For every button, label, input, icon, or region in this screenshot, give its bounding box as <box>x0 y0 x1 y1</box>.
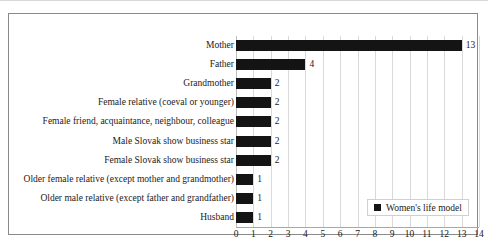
bar-value-label: 2 <box>275 113 280 130</box>
gridline <box>479 36 480 227</box>
y-axis-category-label: Husband <box>16 208 234 227</box>
y-axis-category-label: Female relative (coeval or younger) <box>16 93 234 112</box>
x-tick-label: 12 <box>440 229 450 239</box>
bar <box>236 116 271 127</box>
bar-row: 2 <box>236 93 479 112</box>
x-tick-label: 9 <box>390 229 395 239</box>
bar-row: 2 <box>236 74 479 93</box>
bar-value-label: 2 <box>275 94 280 111</box>
bar <box>236 59 305 70</box>
y-axis-category-label: Father <box>16 55 234 74</box>
x-tick-label: 6 <box>338 229 343 239</box>
x-axis-tick-labels: 01234567891011121314 <box>236 229 479 243</box>
x-tick-label: 7 <box>355 229 360 239</box>
y-axis-category-label: Female Slovak show business star <box>16 151 234 170</box>
y-axis-category-label: Male Slovak show business star <box>16 132 234 151</box>
x-tick-label: 8 <box>372 229 377 239</box>
bar <box>236 212 253 223</box>
bar <box>236 193 253 204</box>
bar-row: 2 <box>236 132 479 151</box>
bar-value-label: 2 <box>275 133 280 150</box>
bar-value-label: 4 <box>309 56 314 73</box>
bar <box>236 78 271 89</box>
y-axis-category-label: Female friend, acquaintance, neighbour, … <box>16 112 234 131</box>
bar <box>236 155 271 166</box>
legend-swatch-icon <box>374 204 381 211</box>
x-axis-line <box>236 227 479 228</box>
bar <box>236 136 271 147</box>
bar-value-label: 1 <box>257 190 262 207</box>
x-tick-label: 10 <box>405 229 415 239</box>
bar-value-label: 1 <box>257 171 262 188</box>
x-tick-label: 11 <box>422 229 431 239</box>
bar-row: 2 <box>236 112 479 131</box>
y-axis-category-labels: MotherFatherGrandmotherFemale relative (… <box>14 36 234 227</box>
bar-row: 13 <box>236 36 479 55</box>
y-axis-category-label: Older female relative (except mother and… <box>16 170 234 189</box>
y-axis-category-label: Older male relative (except father and g… <box>16 189 234 208</box>
chart-frame: MotherFatherGrandmotherFemale relative (… <box>8 13 478 235</box>
legend-item-label: Women's life model <box>386 203 462 213</box>
bar-value-label: 2 <box>275 75 280 92</box>
bar-row: 4 <box>236 55 479 74</box>
bar-row: 1 <box>236 170 479 189</box>
y-axis-category-label: Grandmother <box>16 74 234 93</box>
x-tick-label: 0 <box>234 229 239 239</box>
x-tick-label: 4 <box>303 229 308 239</box>
y-axis-category-label: Mother <box>16 36 234 55</box>
bar <box>236 97 271 108</box>
bar-value-label: 2 <box>275 152 280 169</box>
x-tick-label: 3 <box>286 229 291 239</box>
x-tick-label: 13 <box>457 229 467 239</box>
page-top-rule <box>0 0 488 1</box>
x-tick-label: 1 <box>251 229 256 239</box>
bar <box>236 40 462 51</box>
bar-value-label: 1 <box>257 209 262 226</box>
bar-value-label: 13 <box>466 37 476 54</box>
bar-row: 2 <box>236 151 479 170</box>
chart-figure: MotherFatherGrandmotherFemale relative (… <box>0 0 488 246</box>
chart-legend: Women's life model <box>367 199 469 216</box>
x-tick-label: 14 <box>474 229 484 239</box>
bar <box>236 174 253 185</box>
x-tick-label: 2 <box>268 229 273 239</box>
x-tick-label: 5 <box>320 229 325 239</box>
